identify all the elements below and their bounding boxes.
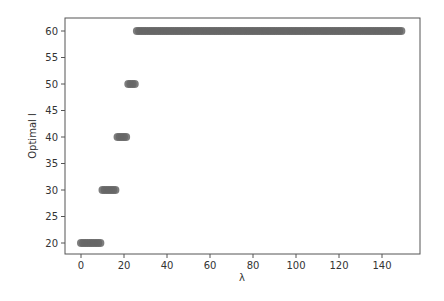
data-point	[96, 239, 104, 247]
y-tick-label: 20	[45, 238, 58, 249]
x-axis-label: λ	[239, 272, 245, 283]
y-tick-label: 60	[45, 26, 58, 37]
y-tick-label: 35	[45, 158, 58, 169]
data-point	[122, 133, 130, 141]
x-tick-label: 100	[286, 260, 305, 271]
data-point	[397, 27, 405, 35]
x-tick-label: 0	[78, 260, 84, 271]
y-axis-label: Optimal l	[27, 113, 38, 159]
y-tick-label: 50	[45, 79, 58, 90]
x-axis: 020406080100120140	[78, 254, 392, 271]
y-tick-label: 25	[45, 211, 58, 222]
y-axis: 202530354045505560	[45, 26, 65, 249]
y-tick-label: 40	[45, 132, 58, 143]
x-tick-label: 140	[372, 260, 391, 271]
y-tick-label: 30	[45, 185, 58, 196]
data-point	[131, 80, 139, 88]
y-tick-label: 45	[45, 105, 58, 116]
x-tick-label: 60	[204, 260, 217, 271]
data-point	[111, 186, 119, 194]
x-tick-label: 80	[247, 260, 260, 271]
y-tick-label: 55	[45, 52, 58, 63]
plot-area	[77, 27, 405, 247]
x-tick-label: 120	[329, 260, 348, 271]
chart: 020406080100120140 202530354045505560 λ …	[0, 0, 444, 301]
x-tick-label: 20	[118, 260, 131, 271]
x-tick-label: 40	[161, 260, 174, 271]
